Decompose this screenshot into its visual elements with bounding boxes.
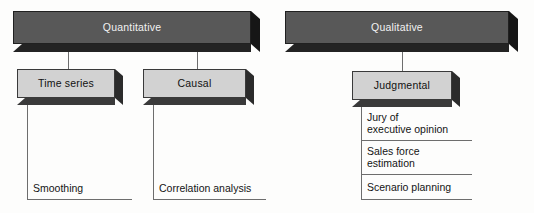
leaf-smoothing: Smoothing [33, 183, 83, 195]
quantitative-bar-face: Quantitative [13, 11, 251, 44]
leaf-jury-of-executive-opinion: Jury of executive opinion [367, 112, 477, 135]
causal-bottom-face [143, 98, 246, 105]
qualitative-bar-side-face [509, 11, 518, 52]
leaf-scenario-planning-text: Scenario planning [367, 181, 451, 193]
quantitative-bar-label: Quantitative [103, 22, 161, 33]
leaf-sales-line-2: estimation [367, 158, 477, 170]
divider-after-scenario [361, 199, 472, 200]
leaf-scenario-planning: Scenario planning [367, 182, 451, 194]
leaf-sales-force-estimation: Sales force estimation [367, 146, 477, 169]
causal-label: Causal [178, 78, 212, 89]
bracket-vline-smoothing [27, 104, 28, 200]
box-causal: Causal [143, 69, 246, 98]
bracket-hline-smoothing [27, 199, 132, 200]
box-time-series: Time series [17, 69, 115, 98]
leaf-correlation-analysis-text: Correlation analysis [159, 182, 251, 194]
qualitative-bar-bottom-face [285, 44, 509, 52]
time-series-side-face [115, 69, 123, 105]
qualitative-bar-face: Qualitative [285, 11, 509, 44]
leaf-sales-line-1: Sales force [367, 146, 477, 158]
forecasting-methods-diagram: Quantitative Time series Causal Smoothin… [0, 0, 534, 213]
leaf-correlation-analysis: Correlation analysis [159, 183, 251, 195]
causal-side-face [246, 69, 254, 105]
judgmental-label: Judgmental [374, 80, 430, 91]
leaf-smoothing-text: Smoothing [33, 182, 83, 194]
judgmental-face: Judgmental [352, 71, 452, 100]
judgmental-side-face [452, 71, 460, 107]
time-series-label: Time series [38, 78, 94, 89]
bracket-vline-judgmental-list [361, 106, 362, 200]
leaf-jury-line-2: executive opinion [367, 124, 477, 136]
header-bar-quantitative: Quantitative [13, 11, 251, 44]
judgmental-bottom-face [352, 100, 452, 107]
divider-after-jury [361, 140, 472, 141]
bracket-vline-correlation [153, 104, 154, 200]
qualitative-bar-label: Qualitative [371, 22, 423, 33]
bracket-hline-correlation [153, 199, 266, 200]
leaf-jury-line-1: Jury of [367, 112, 477, 124]
quantitative-bar-side-face [251, 11, 260, 52]
quantitative-bar-bottom-face [13, 44, 251, 52]
time-series-bottom-face [17, 98, 115, 105]
time-series-face: Time series [17, 69, 115, 98]
causal-face: Causal [143, 69, 246, 98]
box-judgmental: Judgmental [352, 71, 452, 100]
divider-after-sales-force [361, 174, 472, 175]
header-bar-qualitative: Qualitative [285, 11, 509, 44]
